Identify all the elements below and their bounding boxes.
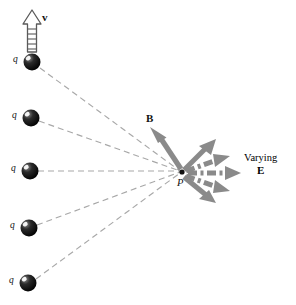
charge-label-2: q [12,111,17,121]
ray-lines-group [36,68,180,279]
charge-sphere [23,110,40,127]
electric-field-arrows-group [184,139,241,203]
charge-label-5: q [9,276,14,286]
charge-spheres-group [20,54,41,292]
observation-point-dot [179,169,184,174]
charge-sphere [24,54,41,71]
ray-line-5 [36,173,180,279]
magnetic-field-arrow [150,127,181,169]
ray-line-1 [40,68,180,171]
charge-label-1: q [13,55,18,65]
magnetic-field-label: B [146,113,153,124]
velocity-label: v [42,12,48,23]
charge-sphere [20,275,37,292]
observation-point-label: P [177,178,183,189]
charge-sphere [22,163,39,180]
varying-text: Varying [244,152,277,164]
charge-label-4: q [10,221,15,231]
electric-field-symbol: E [244,164,277,177]
charge-sphere [21,220,38,237]
ray-line-2 [39,121,180,171]
e-field-arrow-center [188,166,241,180]
electromagnetic-radiation-diagram: v q q q q q B P Varying E [0,0,296,305]
electric-field-label: Varying E [244,152,277,177]
velocity-arrow [23,10,41,52]
ray-line-4 [37,172,180,225]
charge-label-3: q [11,164,16,174]
